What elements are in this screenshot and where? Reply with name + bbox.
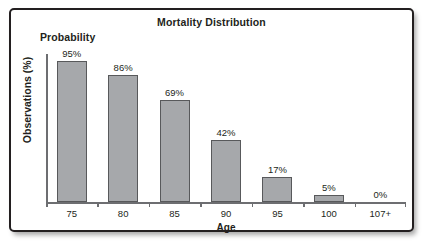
chart-frame: Mortality Distribution Probability Obser… [9,8,414,232]
x-tick-label-107+: 107+ [370,208,391,219]
bar-value-label-107+: 0% [373,189,387,200]
bar-rect-85 [160,100,190,202]
bar-rect-90 [211,140,241,202]
bar-series: 95%86%69%42%17%5%0% [46,54,406,202]
bar-80: 86% [97,54,148,202]
x-tick-label-100: 100 [321,208,337,219]
x-axis-tick-labels: 7580859095100107+ [46,208,406,222]
bar-90: 42% [200,54,251,202]
bar-value-label-85: 69% [165,87,184,98]
bar-value-label-80: 86% [114,62,133,73]
x-tick-100 [303,202,305,207]
bar-value-label-100: 5% [322,182,336,193]
bar-rect-95 [262,177,292,202]
series-label: Probability [40,31,95,43]
x-tick-label-85: 85 [169,208,180,219]
bar-rect-100 [314,195,344,202]
x-tick-85 [149,202,151,207]
bar-75: 95% [46,54,97,202]
x-axis-title: Age [46,222,406,233]
x-tick-end [405,202,407,207]
chart-title: Mortality Distribution [11,16,412,28]
bar-95: 17% [252,54,303,202]
bar-value-label-95: 17% [268,164,287,175]
x-tick-label-95: 95 [272,208,283,219]
x-axis-ticks [46,202,406,207]
bar-107+: 0% [355,54,406,202]
x-tick-95 [252,202,254,207]
bar-100: 5% [303,54,354,202]
bar-value-label-75: 95% [62,48,81,59]
bar-85: 69% [149,54,200,202]
plot-area: 95%86%69%42%17%5%0% [46,54,406,202]
bar-rect-80 [108,75,138,202]
x-tick-label-75: 75 [66,208,77,219]
x-tick-75 [46,202,48,207]
x-tick-107+ [355,202,357,207]
x-tick-label-90: 90 [221,208,232,219]
y-axis-title: Observations (%) [21,40,33,160]
x-tick-label-80: 80 [118,208,129,219]
x-tick-90 [200,202,202,207]
bar-value-label-90: 42% [216,127,235,138]
bar-rect-75 [57,61,87,202]
x-tick-80 [97,202,99,207]
